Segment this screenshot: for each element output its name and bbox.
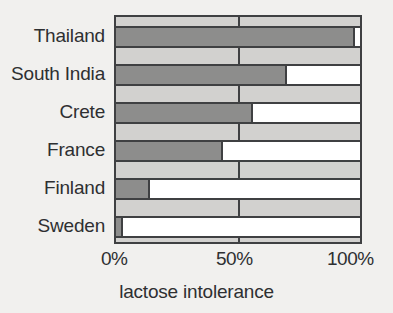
bar-fill-france bbox=[116, 142, 223, 160]
x-axis-title: lactose intolerance bbox=[0, 281, 393, 303]
bar-row-thailand bbox=[116, 26, 360, 48]
y-axis-label-finland: Finland bbox=[0, 177, 105, 199]
bar-row-south-india bbox=[116, 64, 360, 86]
lactose-intolerance-bar-chart: Thailand South India Crete France Finlan… bbox=[0, 0, 393, 313]
bar-fill-thailand bbox=[116, 28, 355, 46]
bar-fill-crete bbox=[116, 104, 253, 122]
y-axis-label-france: France bbox=[0, 139, 105, 161]
x-tick-label-0: 0% bbox=[101, 248, 127, 270]
bar-fill-south-india bbox=[116, 66, 287, 84]
bar-row-sweden bbox=[116, 216, 360, 238]
y-axis-label-south-india: South India bbox=[0, 63, 105, 85]
gridline-50-percent bbox=[238, 17, 240, 242]
bar-row-france bbox=[116, 140, 360, 162]
bar-fill-finland bbox=[116, 180, 150, 198]
y-axis-label-thailand: Thailand bbox=[0, 25, 105, 47]
bar-row-finland bbox=[116, 178, 360, 200]
plot-inner bbox=[116, 17, 360, 242]
bar-row-crete bbox=[116, 102, 360, 124]
y-axis-label-crete: Crete bbox=[0, 101, 105, 123]
bar-fill-sweden bbox=[116, 218, 123, 236]
plot-area bbox=[114, 15, 362, 244]
x-tick-label-50: 50% bbox=[216, 248, 253, 270]
y-axis-label-sweden: Sweden bbox=[0, 215, 105, 237]
x-tick-label-100: 100% bbox=[327, 248, 374, 270]
